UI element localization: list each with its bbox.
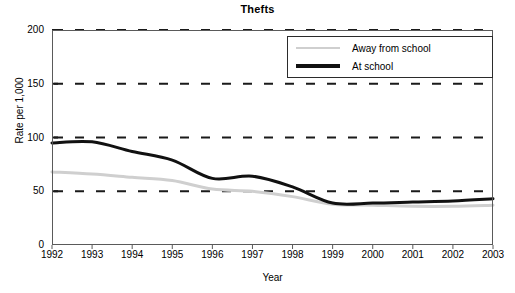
x-tick-label: 1999 (311, 249, 355, 260)
legend-line-swatch-at-icon (296, 64, 340, 68)
x-tick-label: 1995 (150, 249, 194, 260)
legend-item-away-from-school: Away from school (296, 40, 431, 56)
x-axis-label: Year (52, 272, 493, 283)
x-tick-label: 1998 (271, 249, 315, 260)
x-tick-label: 1994 (110, 249, 154, 260)
x-tick-label: 2000 (351, 249, 395, 260)
legend-label-at: At school (352, 61, 393, 72)
x-tick-label: 2002 (431, 249, 475, 260)
thefts-line-chart: Thefts 050100150200 19921993199419951996… (0, 0, 515, 293)
x-tick-label: 2003 (471, 249, 515, 260)
x-tick-label: 1997 (230, 249, 274, 260)
x-tick-label: 1996 (190, 249, 234, 260)
y-axis-label: Rate per 1,000 (14, 56, 25, 166)
chart-legend: Away from school At school (287, 36, 493, 78)
x-tick-label: 1992 (30, 249, 74, 260)
legend-line-swatch-away-icon (296, 47, 340, 49)
x-tick-label: 1993 (70, 249, 114, 260)
x-tick-label: 2001 (391, 249, 435, 260)
y-tick-label: 200 (14, 25, 44, 35)
legend-item-at-school: At school (296, 58, 393, 74)
y-tick-label: 50 (14, 186, 44, 196)
legend-label-away: Away from school (352, 43, 431, 54)
